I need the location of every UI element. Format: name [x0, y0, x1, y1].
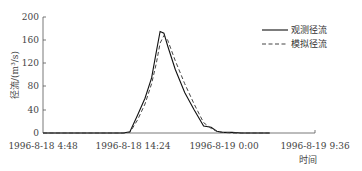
y-tick-label: 160 — [22, 35, 39, 45]
y-tick-label: 120 — [22, 58, 39, 68]
x-tick-label: 1996-8-19 9:36 — [280, 141, 350, 151]
x-axis-label: 时间 — [299, 154, 317, 165]
legend-simulated: 模拟径流 — [291, 38, 327, 49]
y-axis-label: 径流/(m³/s) — [9, 51, 20, 99]
y-tick-label: 80 — [28, 81, 40, 91]
y-ticks: 0 40 80 120 160 200 — [22, 12, 46, 138]
y-tick-label: 0 — [33, 128, 39, 138]
y-tick-label: 200 — [22, 12, 39, 22]
observed-runoff-line — [43, 32, 270, 134]
legend: 观测径流 模拟径流 — [262, 24, 327, 49]
runoff-chart: 0 40 80 120 160 200 径流/(m³/s) 1996-8-18 … — [0, 0, 362, 171]
x-tick-label: 1996-8-19 0:00 — [189, 141, 259, 151]
x-ticks: 1996-8-18 4:48 1996-8-18 14:24 1996-8-19… — [8, 141, 350, 151]
y-tick-label: 40 — [28, 105, 40, 115]
x-tick-label: 1996-8-18 4:48 — [8, 141, 78, 151]
x-tick-label: 1996-8-18 14:24 — [96, 141, 171, 151]
legend-observed: 观测径流 — [291, 24, 327, 35]
